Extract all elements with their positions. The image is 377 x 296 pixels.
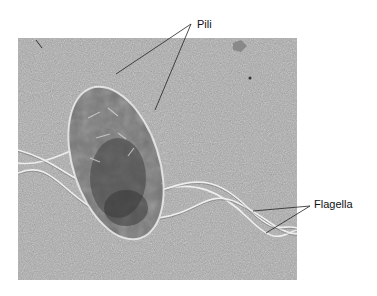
label-pili: Pili: [197, 18, 212, 30]
label-flagella: Flagella: [314, 198, 353, 210]
micrograph-figure: Pili Flagella: [0, 0, 377, 296]
leader-lines: [0, 0, 377, 296]
